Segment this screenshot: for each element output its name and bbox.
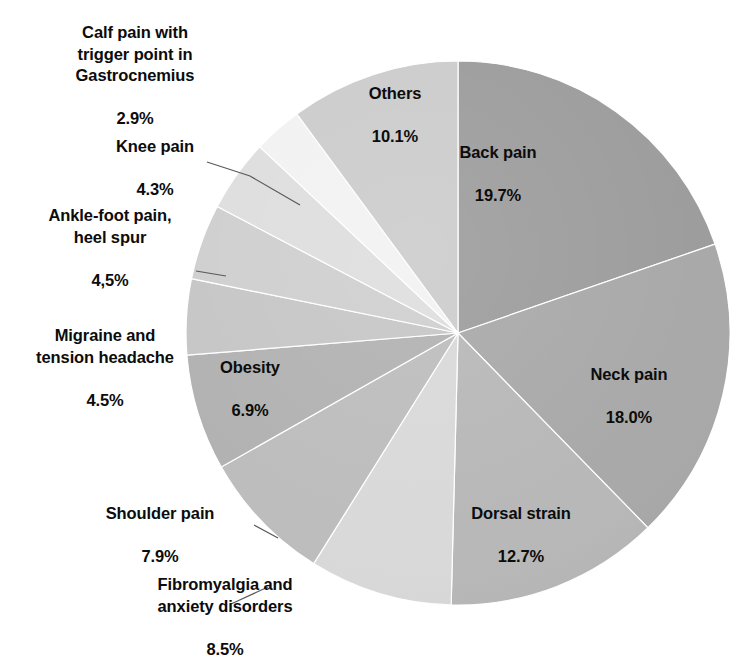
slice-label-knee-pain-name: Knee pain bbox=[63, 137, 248, 158]
slice-label-ankle-foot-name: Ankle-foot pain, heel spur bbox=[3, 205, 218, 248]
slice-label-others: Others 10.1% bbox=[369, 62, 422, 169]
slice-label-back-pain: Back pain 19.7% bbox=[459, 121, 536, 228]
slice-label-migraine: Migraine and tension headache 4.5% bbox=[0, 304, 213, 433]
slice-label-neck-pain-value: 18.0% bbox=[590, 408, 667, 429]
slice-label-back-pain-value: 19.7% bbox=[459, 186, 536, 207]
slice-label-others-name: Others bbox=[369, 84, 422, 105]
slice-label-dorsal-strain: Dorsal strain 12.7% bbox=[471, 482, 571, 589]
slice-label-migraine-name: Migraine and tension headache bbox=[0, 325, 213, 368]
slice-label-obesity-value: 6.9% bbox=[220, 401, 280, 422]
slice-label-fibromyalgia-value: 8.5% bbox=[108, 638, 343, 659]
slice-label-obesity: Obesity 6.9% bbox=[220, 336, 280, 443]
slice-label-ankle-foot-value: 4,5% bbox=[3, 269, 218, 290]
slice-label-others-value: 10.1% bbox=[369, 127, 422, 148]
slice-label-migraine-value: 4.5% bbox=[0, 389, 213, 410]
slice-label-calf-pain-name: Calf pain with trigger point in Gastrocn… bbox=[28, 22, 243, 86]
slice-label-fibromyalgia: Fibromyalgia and anxiety disorders 8.5% bbox=[108, 553, 343, 671]
pie-chart: Back pain 19.7% Neck pain 18.0% Dorsal s… bbox=[0, 0, 736, 671]
slice-label-back-pain-name: Back pain bbox=[459, 143, 536, 164]
slice-label-neck-pain-name: Neck pain bbox=[590, 365, 667, 386]
slice-label-fibromyalgia-name: Fibromyalgia and anxiety disorders bbox=[108, 574, 343, 617]
slice-label-ankle-foot: Ankle-foot pain, heel spur 4,5% bbox=[3, 184, 218, 313]
pie-shading-overlay bbox=[186, 61, 730, 605]
slice-label-neck-pain: Neck pain 18.0% bbox=[590, 343, 667, 450]
slice-label-dorsal-strain-value: 12.7% bbox=[471, 547, 571, 568]
slice-label-shoulder-pain-name: Shoulder pain bbox=[60, 504, 260, 525]
slice-label-obesity-name: Obesity bbox=[220, 358, 280, 379]
slice-label-dorsal-strain-name: Dorsal strain bbox=[471, 504, 571, 525]
